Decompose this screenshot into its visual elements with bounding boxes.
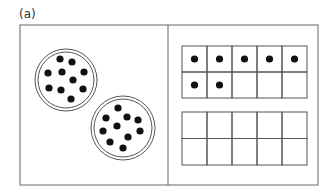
counter-dot: [291, 55, 298, 62]
diagram-canvas: [0, 0, 334, 196]
counter-dot: [67, 95, 74, 102]
counter-dot: [191, 55, 198, 62]
counter-dot: [69, 76, 76, 83]
ten-frame-cell: [257, 72, 282, 98]
counter-dot: [216, 81, 223, 88]
ten-frame-cell: [282, 72, 307, 98]
ten-frame-bottom: [182, 112, 307, 165]
counter-dot: [119, 144, 126, 151]
ten-frame-cell: [232, 112, 257, 139]
counter-dot: [266, 55, 273, 62]
counter-dot: [56, 55, 63, 62]
plate-rim-inner: [38, 52, 94, 108]
counter-dot: [136, 127, 143, 134]
counter-dot: [124, 133, 131, 140]
counter-dot: [106, 138, 113, 145]
counter-dot: [99, 127, 106, 134]
counter-dot: [114, 104, 121, 111]
plate-1: [35, 49, 97, 111]
counter-dot: [45, 84, 52, 91]
plate-2: [91, 96, 155, 160]
ten-frame-cell: [282, 112, 307, 139]
ten-frame-cell: [182, 112, 207, 139]
ten-frame-top: [182, 46, 307, 98]
counter-dot: [216, 55, 223, 62]
ten-frame-cell: [207, 112, 232, 139]
ten-frame-cell: [257, 139, 282, 166]
ten-frame-cell: [232, 72, 257, 98]
ten-frame-cell: [232, 139, 257, 166]
ten-frame-cell: [207, 139, 232, 166]
ten-frame-cell: [257, 112, 282, 139]
counter-dot: [113, 122, 120, 129]
counter-dot: [191, 81, 198, 88]
ten-frame-cell: [282, 139, 307, 166]
ten-frames-group: [182, 46, 307, 165]
plate-rim-outer: [35, 49, 97, 111]
counter-dot: [79, 85, 86, 92]
counter-dot: [80, 68, 87, 75]
plates-group: [35, 49, 155, 160]
counter-dot: [241, 55, 248, 62]
counter-dot: [57, 86, 64, 93]
ten-frame-cell: [182, 139, 207, 166]
counter-dot: [58, 68, 65, 75]
counter-dot: [123, 113, 130, 120]
counter-dot: [134, 116, 141, 123]
counter-dot: [68, 58, 75, 65]
counter-dot: [102, 114, 109, 121]
counter-dot: [44, 69, 51, 76]
